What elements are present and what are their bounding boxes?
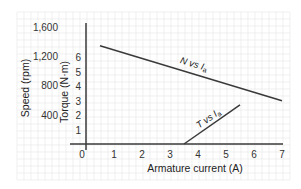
speed-tick-label: 1,200 <box>33 51 58 62</box>
x-tick-label: 3 <box>167 149 173 160</box>
x-tick-label: 0 <box>79 149 85 160</box>
torque-tick-label: 4 <box>75 81 81 92</box>
torque-tick-labels: 123456 <box>75 52 81 136</box>
x-tick-label: 4 <box>195 149 201 160</box>
x-axis-label: Armature current (A) <box>147 162 243 174</box>
x-tick-labels: 01234567 <box>79 149 285 160</box>
chart: 01234567 4008001,2001,600 123456 N vs Ia… <box>0 0 301 189</box>
torque-tick-label: 5 <box>75 67 81 78</box>
speed-tick-label: 800 <box>41 80 58 91</box>
torque-tick-label: 3 <box>75 96 81 107</box>
x-tick-label: 5 <box>223 149 229 160</box>
torque-tick-label: 6 <box>75 52 81 63</box>
speed-tick-label: 400 <box>41 110 58 121</box>
speed-tick-labels: 4008001,2001,600 <box>33 22 58 121</box>
x-tick-label: 1 <box>111 149 117 160</box>
x-tick-label: 6 <box>251 149 257 160</box>
speed-axis-label: Speed (rpm) <box>19 59 31 117</box>
torque-axis-label: Torque (N·m) <box>58 61 70 123</box>
torque-tick-label: 1 <box>75 125 81 136</box>
x-tick-label: 2 <box>139 149 145 160</box>
x-tick-label: 7 <box>279 149 285 160</box>
speed-tick-label: 1,600 <box>33 22 58 33</box>
torque-tick-label: 2 <box>75 110 81 121</box>
